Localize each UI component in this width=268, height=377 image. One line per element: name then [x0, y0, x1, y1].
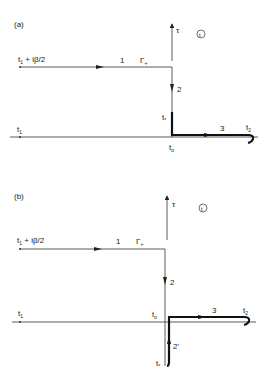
contour-diagram: (a) τ t t1 + iβ/2 1 Γ+ 2 t1 t* to 3 t2 (… — [0, 0, 268, 377]
segment-2p-label: 2' — [173, 342, 179, 351]
t1-label: t1 — [17, 125, 22, 135]
panel-a-label: (a) — [14, 20, 24, 29]
segment-1-arrow-icon — [96, 65, 104, 69]
t2-label: t2 — [243, 306, 248, 316]
segment-3-label: 3 — [212, 306, 217, 315]
gamma-label: Γ+ — [136, 237, 143, 247]
tau-label: τ — [176, 26, 180, 35]
segment-1-label: 1 — [116, 237, 121, 246]
segment-1-label: 1 — [120, 56, 125, 65]
segment-3-arrow-icon — [198, 315, 206, 319]
segment-3-label: 3 — [220, 124, 225, 133]
panel-b: (b) τ t t1 + iβ/2 1 Γ+ 2 t1 2' t* to 3 t… — [12, 192, 256, 369]
tstar-label: t* — [156, 359, 160, 369]
panel-b-label: (b) — [14, 192, 24, 201]
plane-label: t — [199, 32, 201, 38]
tstar-label: t* — [162, 113, 166, 123]
t1-label: t1 — [18, 309, 23, 319]
t2-label: t2 — [246, 123, 251, 133]
segment-2p-arrow-icon — [167, 336, 171, 344]
segment-2-arrow-icon — [163, 277, 167, 285]
segment-2-label: 2 — [170, 278, 175, 287]
start-label: t1 + iβ/2 — [17, 236, 45, 246]
t0-label: to — [169, 143, 174, 153]
segment-2p-3-path — [167, 317, 249, 366]
t0-label: to — [152, 310, 157, 320]
plane-label: t — [201, 206, 203, 212]
segment-2-label: 2 — [177, 85, 182, 94]
segment-3-path — [172, 112, 253, 143]
segment-3-arrow-icon — [204, 133, 212, 137]
tau-label: τ — [172, 200, 176, 209]
segment-1-arrow-icon — [94, 247, 102, 251]
gamma-label: Γ+ — [140, 56, 147, 66]
panel-a: (a) τ t t1 + iβ/2 1 Γ+ 2 t1 t* to 3 t2 — [10, 20, 258, 153]
start-label: t1 + iβ/2 — [18, 55, 46, 65]
segment-2-arrow-icon — [170, 84, 174, 92]
